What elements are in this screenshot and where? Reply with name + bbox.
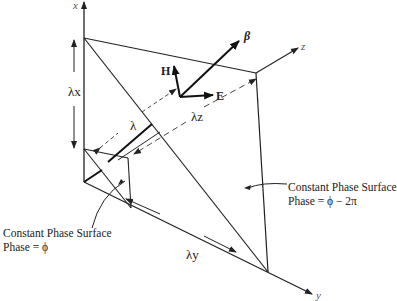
lambda-y-label: λy <box>186 248 199 261</box>
annotation-constant-phase-phi: Constant Phase Surface Phase = ϕ <box>3 226 112 254</box>
constant-phase-plane-phi <box>84 149 131 208</box>
e-field-label: E <box>216 90 224 102</box>
annotation-phi-line1: Constant Phase Surface <box>3 226 112 240</box>
x-axis-label: x <box>73 0 78 11</box>
y-axis <box>84 182 312 294</box>
annotation-phi-minus-2pi-line2: Phase = ϕ − 2π <box>288 194 397 208</box>
y-axis-label: y <box>316 290 321 301</box>
h-field-label: H <box>161 65 170 77</box>
lambda-x-label: λx <box>68 85 81 98</box>
annotation-phi-minus-2pi-line1: Constant Phase Surface <box>288 180 397 194</box>
field-vectors <box>174 41 239 97</box>
lambda-label: λ <box>130 119 136 132</box>
lambda-y-dimension <box>126 199 236 252</box>
beta-vector-label: β <box>244 30 250 42</box>
z-axis <box>256 48 298 73</box>
annotation-leaders <box>92 179 287 228</box>
z-axis-label: z <box>301 41 305 52</box>
lambda-propagation-dimension <box>142 89 176 112</box>
lambda-z-label: λz <box>191 110 203 123</box>
annotation-constant-phase-phi-minus-2pi: Constant Phase Surface Phase = ϕ − 2π <box>288 180 397 208</box>
annotation-phi-line2: Phase = ϕ <box>3 240 112 254</box>
